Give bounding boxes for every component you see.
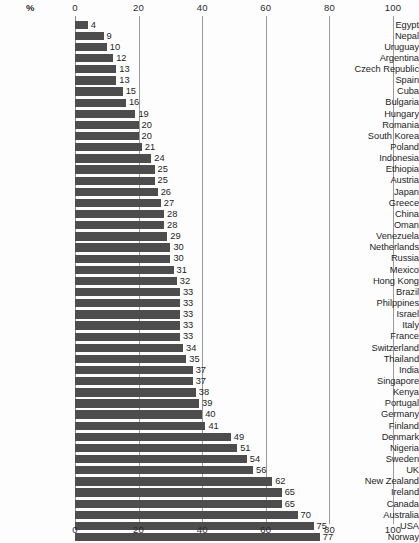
bar bbox=[75, 277, 177, 285]
bottom-axis-tick-40: 40 bbox=[197, 524, 208, 535]
bar-value-label: 13 bbox=[119, 64, 129, 74]
bar bbox=[75, 422, 205, 430]
bar-value-label: 70 bbox=[301, 510, 311, 520]
bar-row: Germany40 bbox=[0, 409, 419, 420]
category-label: Argentina bbox=[348, 53, 419, 63]
category-label: Cuba bbox=[348, 86, 419, 96]
category-label: Kenya bbox=[348, 387, 419, 397]
bar bbox=[75, 143, 142, 151]
bar-row: India37 bbox=[0, 365, 419, 376]
bar-value-label: 20 bbox=[142, 120, 152, 130]
bar-value-label: 30 bbox=[173, 242, 183, 252]
category-label: Sweden bbox=[348, 454, 419, 464]
bar bbox=[75, 32, 104, 40]
bar-value-label: 49 bbox=[234, 432, 244, 442]
bar bbox=[75, 54, 113, 62]
category-label: Brazil bbox=[348, 287, 419, 297]
bar-row: Bulgaria16 bbox=[0, 97, 419, 108]
bar bbox=[75, 288, 180, 296]
bar-row: Venezuela29 bbox=[0, 231, 419, 242]
bar-row: Hungary19 bbox=[0, 109, 419, 120]
bar-value-label: 4 bbox=[91, 20, 96, 30]
category-label: France bbox=[348, 331, 419, 341]
plot-area: Egypt4Nepal9Uruguay10Argentina12Czech Re… bbox=[0, 0, 419, 543]
bar-value-label: 31 bbox=[177, 265, 187, 275]
bar-row: Denmark49 bbox=[0, 432, 419, 443]
category-label: South Korea bbox=[348, 131, 419, 141]
bar bbox=[75, 488, 282, 496]
bar-value-label: 28 bbox=[167, 220, 177, 230]
bar-row: Canada65 bbox=[0, 499, 419, 510]
bar-row: Finland41 bbox=[0, 421, 419, 432]
bar bbox=[75, 321, 180, 329]
bar bbox=[75, 399, 199, 407]
bar-row: Argentina12 bbox=[0, 53, 419, 64]
category-label: Oman bbox=[348, 220, 419, 230]
bar bbox=[75, 511, 298, 519]
category-label: New Zealand bbox=[348, 476, 419, 486]
bar-row: New Zealand62 bbox=[0, 476, 419, 487]
bar-row: Singapore37 bbox=[0, 376, 419, 387]
bar bbox=[75, 87, 123, 95]
bar-value-label: 25 bbox=[158, 164, 168, 174]
bar bbox=[75, 266, 174, 274]
category-label: Uruguay bbox=[348, 42, 419, 52]
bar-chart: % 020406080100 Egypt4Nepal9Uruguay10Arge… bbox=[0, 0, 419, 543]
bar-value-label: 33 bbox=[183, 287, 193, 297]
category-label: Philppines bbox=[348, 298, 419, 308]
bar-value-label: 20 bbox=[142, 131, 152, 141]
bar-row: Nepal9 bbox=[0, 31, 419, 42]
category-label: Japan bbox=[348, 187, 419, 197]
bar-row: Russia30 bbox=[0, 253, 419, 264]
bar-value-label: 33 bbox=[183, 298, 193, 308]
category-label: Italy bbox=[348, 320, 419, 330]
bar bbox=[75, 177, 155, 185]
bar-value-label: 27 bbox=[164, 198, 174, 208]
bar-value-label: 51 bbox=[240, 443, 250, 453]
category-label: Poland bbox=[348, 142, 419, 152]
bar-row: Cuba15 bbox=[0, 86, 419, 97]
bar bbox=[75, 188, 158, 196]
bar-value-label: 37 bbox=[196, 376, 206, 386]
category-label: India bbox=[348, 365, 419, 375]
bar bbox=[75, 388, 196, 396]
bar-row: Australia70 bbox=[0, 510, 419, 521]
bar bbox=[75, 210, 164, 218]
bar-value-label: 9 bbox=[107, 31, 112, 41]
bar-value-label: 65 bbox=[285, 487, 295, 497]
bar bbox=[75, 221, 164, 229]
category-label: Indonesia bbox=[348, 153, 419, 163]
bar-row: Nigeria51 bbox=[0, 443, 419, 454]
bar bbox=[75, 310, 180, 318]
bar bbox=[75, 500, 282, 508]
bar bbox=[75, 366, 193, 374]
bar-row: China28 bbox=[0, 209, 419, 220]
bar bbox=[75, 199, 161, 207]
bar-value-label: 33 bbox=[183, 309, 193, 319]
bar-value-label: 40 bbox=[205, 409, 215, 419]
bar-value-label: 28 bbox=[167, 209, 177, 219]
bar bbox=[75, 466, 253, 474]
bar-row: Romania20 bbox=[0, 120, 419, 131]
category-label: Mexico bbox=[348, 265, 419, 275]
bar bbox=[75, 355, 186, 363]
bar bbox=[75, 165, 155, 173]
bar bbox=[75, 132, 139, 140]
bar-row: Hong Kong32 bbox=[0, 276, 419, 287]
bar-row: Brazil33 bbox=[0, 287, 419, 298]
bar bbox=[75, 65, 116, 73]
bar bbox=[75, 99, 126, 107]
bar bbox=[75, 344, 183, 352]
bar-row: UK56 bbox=[0, 465, 419, 476]
category-label: Finland bbox=[348, 421, 419, 431]
bar-row: Switzerland34 bbox=[0, 343, 419, 354]
category-label: Israel bbox=[348, 309, 419, 319]
bar-value-label: 39 bbox=[202, 398, 212, 408]
bar-value-label: 33 bbox=[183, 320, 193, 330]
bar-value-label: 19 bbox=[138, 109, 148, 119]
category-label: Switzerland bbox=[348, 343, 419, 353]
category-label: Greece bbox=[348, 198, 419, 208]
category-label: Nepal bbox=[348, 31, 419, 41]
bar-row: Thailand35 bbox=[0, 354, 419, 365]
bar-row: South Korea20 bbox=[0, 131, 419, 142]
